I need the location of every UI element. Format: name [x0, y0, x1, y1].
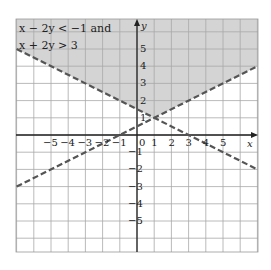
y-tick-label: 2 — [140, 96, 146, 106]
y-tick-label: 1 — [140, 113, 146, 123]
x-tick-label: −1 — [112, 138, 127, 148]
x-tick-label: 1 — [151, 138, 157, 148]
x-axis-label: x — [247, 139, 253, 149]
title-line-2: x + 2y > 3 — [19, 37, 111, 54]
y-axis-label: y — [141, 21, 147, 31]
y-tick-label: 5 — [140, 44, 146, 54]
x-tick-label: −3 — [77, 138, 92, 148]
y-tick-label: 4 — [140, 61, 146, 71]
x-tick-label: 4 — [203, 138, 209, 148]
y-tick-label: −5 — [128, 216, 143, 226]
y-tick-label: −4 — [128, 199, 143, 209]
title-line-1: x − 2y < −1 and — [19, 20, 111, 37]
x-tick-label: 2 — [168, 138, 174, 148]
y-tick-label: −1 — [128, 147, 143, 157]
x-tick-label: −4 — [60, 138, 75, 148]
y-tick-label: −3 — [128, 182, 143, 192]
x-tick-label: 5 — [220, 138, 226, 148]
x-tick-label: −5 — [43, 138, 58, 148]
x-tick-label: −2 — [95, 138, 110, 148]
chart-title: x − 2y < −1 and x + 2y > 3 — [19, 20, 111, 54]
y-tick-label: 3 — [140, 78, 146, 88]
y-tick-label: −2 — [128, 164, 143, 174]
x-tick-label: 3 — [186, 138, 192, 148]
